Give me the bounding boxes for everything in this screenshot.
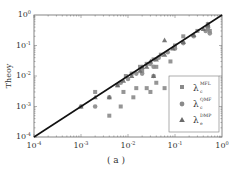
x-tick-label: 10-4 <box>26 140 41 150</box>
legend-label-main: λ <box>193 99 199 109</box>
x-axis-tick-labels: 10-4 10-3 10-2 10-1 100 <box>26 140 228 150</box>
data-point <box>121 90 125 94</box>
data-point <box>181 34 185 38</box>
legend-label-main: λ <box>193 115 199 125</box>
data-point <box>163 86 167 90</box>
data-point <box>148 90 152 94</box>
legend: λ MFL c λ QMF c λ DMP e <box>169 76 219 132</box>
y-axis-tick-labels: 10-4 10-3 10-2 10-1 100 <box>16 9 31 141</box>
y-tick-label: 10-2 <box>16 70 31 80</box>
scatter-chart: 10-4 10-3 10-2 10-1 100 10-4 10-3 10-2 1… <box>0 0 237 178</box>
data-point <box>134 86 138 90</box>
data-point <box>154 81 158 85</box>
legend-label-main: λ <box>193 83 199 93</box>
circle-marker-icon <box>180 102 185 107</box>
legend-label-sup: DMP <box>200 113 211 118</box>
x-tick-label: 10-1 <box>167 140 182 150</box>
legend-label-sup: QMF <box>200 97 211 102</box>
x-tick-label: 100 <box>215 140 228 150</box>
data-point <box>151 65 156 70</box>
y-axis-label: Theoy <box>4 63 13 88</box>
data-point <box>207 31 212 36</box>
data-point <box>168 59 172 63</box>
data-point <box>131 95 135 99</box>
x-tick-label: 10-2 <box>120 140 135 150</box>
data-point <box>107 114 111 118</box>
y-tick-label: 10-1 <box>16 40 31 50</box>
data-point <box>119 105 123 109</box>
legend-label-sup: MFL <box>200 81 211 86</box>
y-tick-label: 10-3 <box>16 101 31 111</box>
y-tick-label: 10-4 <box>16 131 31 141</box>
square-marker-icon <box>180 85 184 89</box>
y-tick-label: 100 <box>18 9 31 19</box>
x-tick-label: 10-3 <box>73 140 88 150</box>
data-point <box>93 90 97 94</box>
figure-caption: ( a ) <box>107 155 125 165</box>
legend-label-sub: e <box>200 121 203 126</box>
data-point <box>93 104 98 109</box>
data-point <box>145 86 149 90</box>
